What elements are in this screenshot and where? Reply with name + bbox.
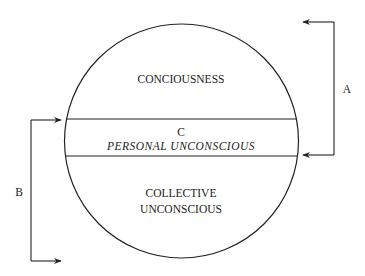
psyche-diagram: CONCIOUSNESS C PERSONAL UNCONSCIOUS COLL… — [0, 0, 365, 276]
label-personal-unconscious: PERSONAL UNCONSCIOUS — [106, 140, 255, 152]
label-c: C — [177, 126, 185, 138]
bracket-a: A — [303, 22, 352, 155]
bracket-b: B — [15, 120, 61, 261]
label-b: B — [15, 186, 23, 198]
label-collective: COLLECTIVE — [146, 187, 217, 199]
label-a: A — [343, 83, 352, 95]
label-conciousness: CONCIOUSNESS — [138, 73, 225, 85]
label-unconscious: UNCONSCIOUS — [140, 203, 222, 215]
